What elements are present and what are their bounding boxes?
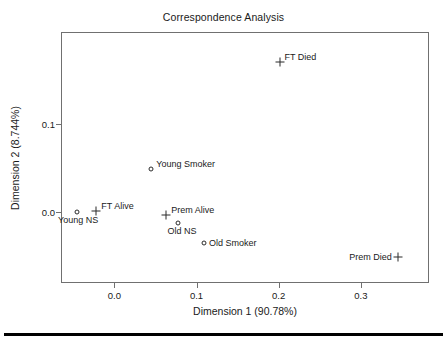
page-title: Correspondence Analysis	[0, 11, 447, 23]
y-axis-label: Dimension 2 (8.744%)	[8, 32, 22, 283]
data-point-label: Old NS	[167, 227, 196, 236]
scatter-plot-area: FT DiedYoung SmokerYoung NSFT AlivePrem …	[61, 32, 429, 283]
x-axis-tick	[114, 283, 115, 288]
circle-marker-icon	[149, 166, 154, 171]
plus-marker-icon	[162, 211, 171, 220]
x-axis-tick	[361, 283, 362, 288]
y-axis-tick	[56, 124, 61, 125]
plus-marker-icon	[275, 57, 284, 66]
plus-marker-icon	[92, 207, 101, 216]
y-axis-tick-label: 0.1	[42, 119, 55, 130]
circle-marker-icon	[201, 240, 206, 245]
correspondence-analysis-figure: Correspondence Analysis FT DiedYoung Smo…	[0, 0, 447, 348]
data-point-label: FT Alive	[101, 202, 133, 211]
x-axis-tick-label: 0.1	[190, 290, 203, 301]
x-axis-tick-label: 0.2	[272, 290, 285, 301]
footer-rule	[4, 333, 443, 336]
data-point-label: Young NS	[58, 216, 98, 225]
x-axis-tick	[197, 283, 198, 288]
data-point-label: Old Smoker	[209, 239, 257, 248]
x-axis-label: Dimension 1 (90.78%)	[61, 305, 429, 317]
data-point-label: FT Died	[285, 53, 317, 62]
data-point-label: Prem Died	[349, 253, 392, 262]
circle-marker-icon	[74, 209, 79, 214]
y-axis-tick-label: 0.0	[42, 206, 55, 217]
plus-marker-icon	[393, 252, 402, 261]
y-axis-label-text: Dimension 2 (8.744%)	[9, 106, 21, 210]
x-axis-tick-label: 0.3	[354, 290, 367, 301]
data-point-label: Prem Alive	[171, 206, 214, 215]
x-axis-tick	[279, 283, 280, 288]
x-axis-tick-label: 0.0	[108, 290, 121, 301]
y-axis-tick	[56, 212, 61, 213]
circle-marker-icon	[176, 221, 181, 226]
data-point-label: Young Smoker	[156, 160, 215, 169]
